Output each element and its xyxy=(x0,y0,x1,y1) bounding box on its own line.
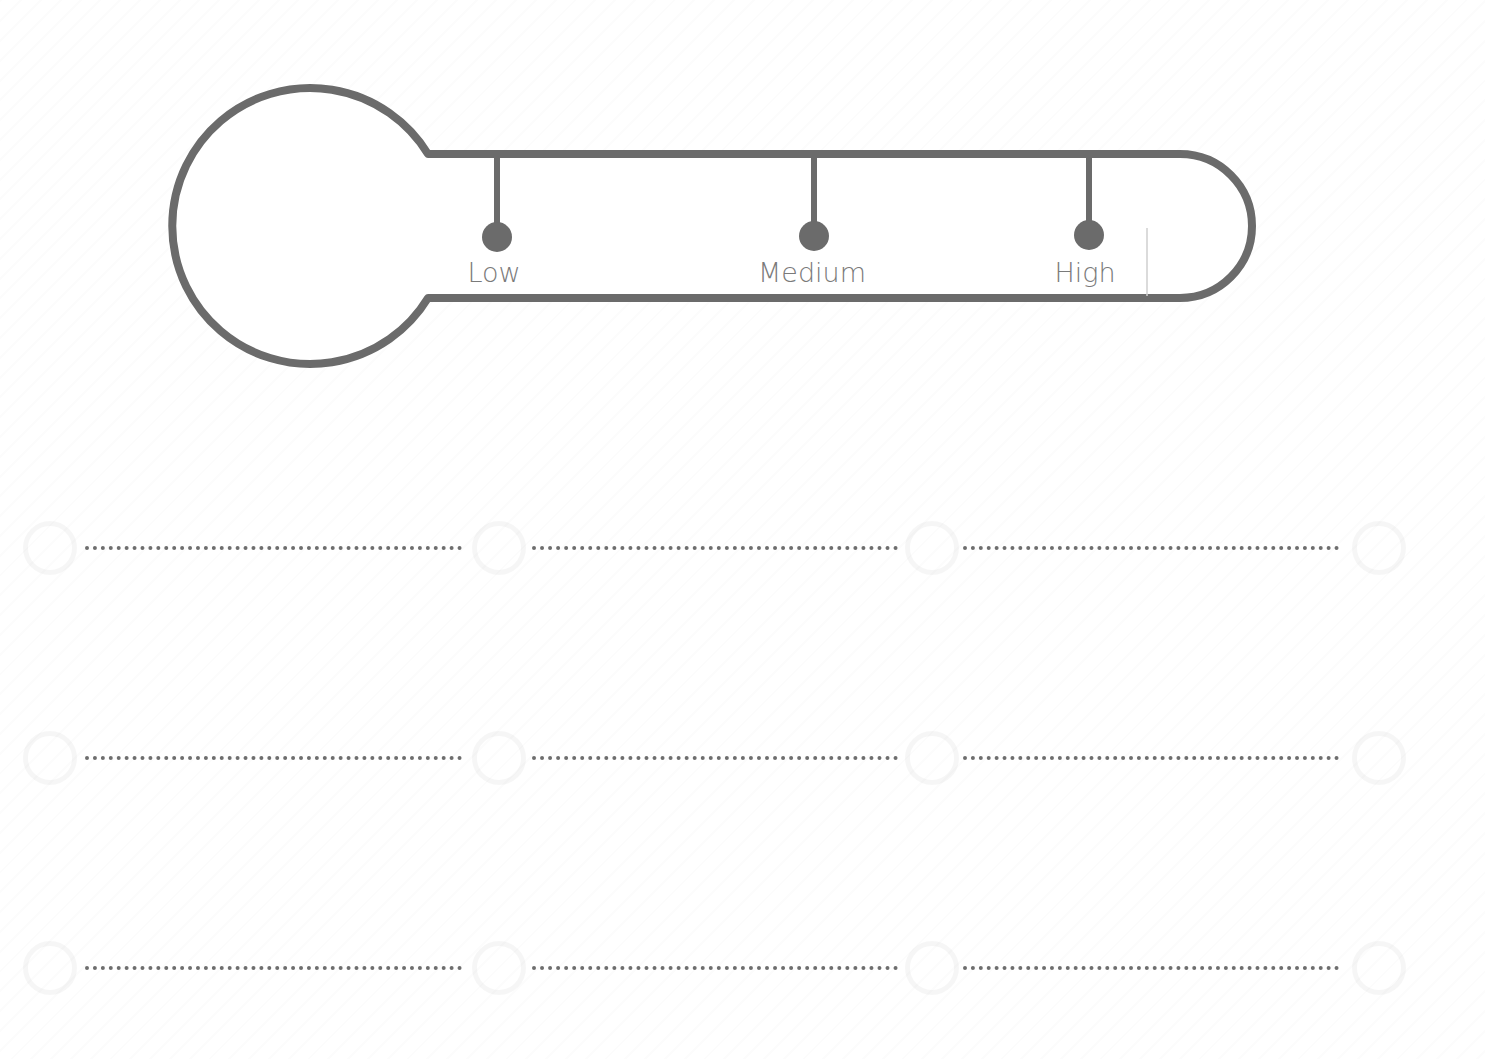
tick-label-high: High xyxy=(1054,257,1115,288)
thermometer-diagram: Low Medium High xyxy=(0,0,1485,420)
watermark-circle-icon xyxy=(905,521,959,575)
watermark-circle-icon xyxy=(472,731,526,785)
watermark-circle-icon xyxy=(23,941,77,995)
tick-label-low: Low xyxy=(467,257,520,288)
answer-line-r3-c1[interactable] xyxy=(85,966,462,970)
watermark-circle-icon xyxy=(905,731,959,785)
watermark-circle-icon xyxy=(1352,521,1406,575)
answer-line-r2-c1[interactable] xyxy=(85,756,462,760)
answer-line-r2-c3[interactable] xyxy=(963,756,1339,760)
answer-line-r1-c3[interactable] xyxy=(963,546,1339,550)
answer-line-r1-c2[interactable] xyxy=(532,546,898,550)
answer-line-r3-c2[interactable] xyxy=(532,966,898,970)
watermark-circle-icon xyxy=(23,731,77,785)
watermark-circle-icon xyxy=(1352,731,1406,785)
watermark-circle-icon xyxy=(905,941,959,995)
tick-dot-icon xyxy=(482,222,512,252)
answer-line-r3-c3[interactable] xyxy=(963,966,1339,970)
watermark-circle-icon xyxy=(472,521,526,575)
worksheet-canvas: Low Medium High xyxy=(0,0,1485,1059)
watermark-circle-icon xyxy=(472,941,526,995)
watermark-circle-icon xyxy=(1352,941,1406,995)
watermark-circle-icon xyxy=(23,521,77,575)
tick-dot-icon xyxy=(1074,220,1104,250)
answer-line-r2-c2[interactable] xyxy=(532,756,898,760)
tick-dot-icon xyxy=(799,221,829,251)
answer-line-r1-c1[interactable] xyxy=(85,546,462,550)
tick-label-medium: Medium xyxy=(758,257,866,288)
